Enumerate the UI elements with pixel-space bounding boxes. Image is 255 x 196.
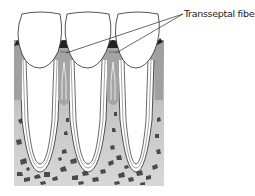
septum-2-3 <box>107 40 119 105</box>
dental-diagram <box>0 0 255 196</box>
tooth-roots <box>20 60 154 172</box>
transseptal-fibers-label: Transseptal fibers <box>184 8 255 20</box>
